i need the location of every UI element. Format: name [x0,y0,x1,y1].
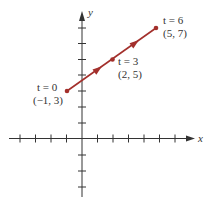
label-t6: t = 6 [163,14,184,26]
label-t3: t = 3 [118,55,139,67]
direction-arrow-icon [93,66,103,75]
label-coord-t6: (5, 7) [163,27,187,40]
label-t0: t = 0 [37,81,58,93]
label-coord-t3: (2, 5) [118,68,142,81]
diagram-svg: x y t = 0 (−1, 3) t = 3 (2, 5) t = 6 (5,… [0,0,214,213]
y-axis [78,11,86,197]
point-t6 [154,26,159,31]
x-axis-arrow-icon [186,136,195,142]
y-axis-label: y [87,6,93,18]
point-t3 [110,57,115,62]
point-t0 [65,89,70,94]
y-axis-arrow-icon [79,11,85,21]
x-axis-label: x [197,132,203,144]
x-axis [9,135,195,143]
parametric-line-diagram: x y t = 0 (−1, 3) t = 3 (2, 5) t = 6 (5,… [0,0,214,213]
direction-arrow-icon [130,40,140,49]
label-coord-t0: (−1, 3) [33,94,63,107]
